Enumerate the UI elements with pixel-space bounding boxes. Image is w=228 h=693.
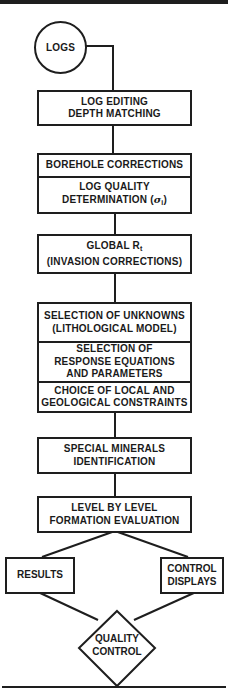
connector-logs-to-editing [83, 46, 113, 90]
global-rt-box: GLOBAL Rt (INVASION CORRECTIONS) [37, 234, 192, 274]
global-rt-line2: (INVASION CORRECTIONS) [47, 256, 182, 269]
global-rt-line1: GLOBAL Rt [86, 240, 142, 256]
constraints-label: CHOICE OF LOCAL AND GEOLOGICAL CONSTRAIN… [39, 381, 190, 411]
special-minerals-box: SPECIAL MINERALS IDENTIFICATION [37, 437, 192, 474]
connector-level-to-results [42, 531, 115, 557]
close-paren: ) [163, 194, 167, 205]
global-rt-cell: GLOBAL Rt (INVASION CORRECTIONS) [39, 236, 190, 272]
control-displays-box: CONTROL DISPLAYS [160, 557, 224, 594]
response-equations-label: SELECTION OF RESPONSE EQUATIONS AND PARA… [39, 341, 190, 381]
log-quality-line1: LOG QUALITY [79, 181, 150, 194]
model-group-box: SELECTION OF UNKNOWNS (LITHOLOGICAL MODE… [37, 302, 192, 413]
determination-text: DETERMINATION ( [62, 194, 154, 205]
selection-unknowns-label: SELECTION OF UNKNOWNS (LITHOLOGICAL MODE… [39, 304, 190, 341]
log-editing-box: LOG EDITING DEPTH MATCHING [37, 90, 192, 126]
quality-control-label: QUALITY CONTROL [84, 632, 150, 658]
borehole-corrections-label: BOREHOLE CORRECTIONS [39, 155, 190, 176]
connector-level-to-displays [115, 531, 188, 557]
logs-label: LOGS [46, 42, 75, 53]
log-editing-label: LOG EDITING DEPTH MATCHING [39, 92, 190, 124]
bottom-rule [2, 686, 226, 688]
results-label: RESULTS [17, 569, 63, 582]
level-by-level-box: LEVEL BY LEVEL FORMATION EVALUATION [37, 496, 192, 533]
control-displays-label: CONTROL DISPLAYS [167, 563, 216, 588]
level-by-level-label: LEVEL BY LEVEL FORMATION EVALUATION [39, 498, 190, 531]
rt-subscript: t [140, 245, 143, 252]
results-box: RESULTS [5, 557, 75, 594]
log-quality-cell: LOG QUALITY DETERMINATION (σi) [39, 176, 190, 212]
global-r-text: GLOBAL R [86, 240, 140, 251]
log-quality-line2: DETERMINATION (σi) [62, 194, 167, 210]
special-minerals-label: SPECIAL MINERALS IDENTIFICATION [39, 439, 190, 472]
corrections-group-box: BOREHOLE CORRECTIONS LOG QUALITY DETERMI… [37, 153, 192, 214]
logs-start-node: LOGS [34, 21, 87, 74]
connector-displays-to-qc [134, 592, 196, 620]
connector-results-to-qc [38, 592, 98, 620]
